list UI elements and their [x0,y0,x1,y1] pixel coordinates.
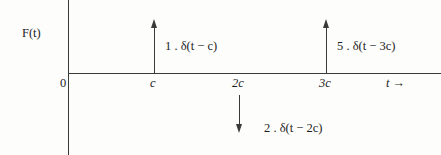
x-tick-label-3c: 3c [319,77,331,90]
impulse-stem-2c [239,95,240,126]
impulse-stem-c [154,26,155,73]
impulse-stem-3c [326,26,327,73]
x-axis-label: t → [386,77,405,90]
impulse-arrowhead-down-2c [236,124,242,133]
y-axis-label: F(t) [22,27,41,40]
x-tick-label-c: c [150,77,156,90]
impulse-annotation-c: 1 . δ(t − c) [165,40,217,53]
impulse-arrowhead-up-c [151,19,157,28]
x-tick-label-origin: 0 [60,77,66,90]
y-axis-label-text: F(t) [22,26,41,40]
impulse-annotation-3c: 5 . δ(t − 3c) [337,40,395,53]
x-tick-label-2c: 2c [232,77,244,90]
impulse-arrowhead-up-3c [323,19,329,28]
vertical-axis [68,0,69,155]
impulse-annotation-2c: 2 . δ(t − 2c) [264,122,322,135]
horizontal-axis [68,73,441,74]
impulse-train-figure: F(t) 0 c 2c 3c t → 1 . δ(t − c) 2 . δ(t … [0,0,441,155]
